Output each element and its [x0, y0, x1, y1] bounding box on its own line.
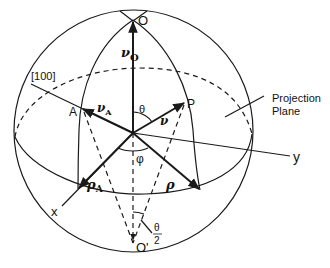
label-100: [100]: [31, 70, 55, 82]
label-rho-A: ρA: [86, 177, 104, 194]
label-theta: θ: [139, 103, 145, 115]
half-theta-arc: [133, 212, 144, 214]
projection-plane-leader: [225, 96, 264, 117]
stereographic-projection-diagram: O O' A P [100] x y νO νA ν ρA ρ θ φ θ 2 …: [0, 0, 330, 268]
label-y: y: [293, 149, 300, 165]
label-P: P: [187, 97, 195, 111]
label-O-prime: O': [136, 240, 149, 255]
label-O: O: [138, 13, 148, 28]
label-x: x: [51, 204, 58, 219]
half-theta-leader: [141, 220, 152, 233]
label-nu-A: νA: [97, 101, 112, 117]
label-rho: ρ: [165, 177, 175, 192]
label-phi: φ: [136, 152, 144, 166]
phi-arc: [118, 148, 148, 151]
label-A: A: [69, 105, 77, 119]
label-half-theta-den: 2: [154, 235, 160, 246]
label-half-theta-num: θ: [154, 222, 160, 233]
label-nu: ν: [160, 114, 169, 128]
label-projection-plane-2: Plane: [272, 105, 300, 117]
label-projection-plane-1: Projection: [272, 92, 321, 104]
label-nu-O: νO: [121, 45, 139, 63]
